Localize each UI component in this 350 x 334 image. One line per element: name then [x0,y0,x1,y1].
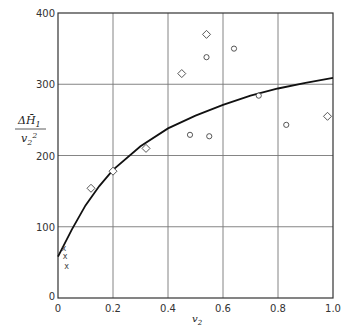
circle-marker [204,55,209,60]
y-axis-label: ΔH̄1 v22 [15,114,46,147]
x-tick-label: 1.0 [325,303,341,314]
grid-lines [58,13,333,298]
data-points: xxx [61,30,331,271]
x-tick-label: 0 [55,303,61,314]
x-tick-label: 0.8 [270,303,286,314]
y-tick-label: 100 [36,222,55,233]
circle-marker [284,122,289,127]
x-marker: x [64,262,69,271]
y-tick-label: 300 [36,79,55,90]
y-tick-label: 400 [36,8,55,19]
circle-marker [207,134,212,139]
fitted-curve [58,78,333,257]
x-marker: x [63,252,68,261]
chart: 0100200300400 00.20.40.60.81.0 xxx ΔH̄1 … [0,0,350,334]
x-axis-label: v2 [192,313,203,327]
diamond-marker [324,112,332,120]
y-tick-label: 0 [49,291,55,302]
y-tick-label: 200 [36,151,55,162]
x-tick-label: 0.4 [160,303,176,314]
diamond-marker [142,144,150,152]
diamond-marker [178,70,186,78]
y-label-denominator: v22 [21,131,37,147]
x-label: v2 [192,313,203,327]
fit-curve-line [58,78,333,257]
circle-marker [256,93,261,98]
diamond-marker [203,30,211,38]
y-label-numerator: ΔH̄1 [17,114,41,129]
x-tick-label: 0.2 [105,303,121,314]
circle-marker [187,132,192,137]
x-tick-label: 0.6 [215,303,231,314]
diamond-marker [87,184,95,192]
circle-marker [231,46,236,51]
y-axis-ticks: 0100200300400 [36,8,55,302]
x-axis-ticks: 00.20.40.60.81.0 [55,303,341,314]
